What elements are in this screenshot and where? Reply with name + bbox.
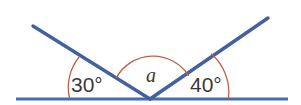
angle-diagram-canvas: 30° a 40° [0, 0, 301, 105]
left-angle-label: 30° [71, 73, 103, 96]
right-angle-label: 40° [190, 73, 222, 96]
middle-angle-label: a [146, 64, 156, 86]
angle-diagram: 30° a 40° [0, 0, 301, 105]
